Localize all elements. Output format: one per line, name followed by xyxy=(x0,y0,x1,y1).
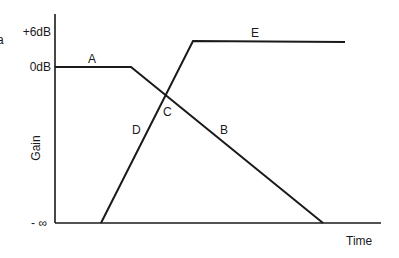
segment-label-a: A xyxy=(88,52,96,66)
y-axis-title: Gain xyxy=(29,135,43,160)
segment-label-d: D xyxy=(132,123,141,137)
segment-label-e: E xyxy=(251,26,259,40)
curve-fade-out xyxy=(55,67,323,223)
tick-minus-infinity: - ∞ xyxy=(31,216,47,230)
segment-label-b: B xyxy=(220,123,228,137)
gain-time-diagram: +6dB 0dB - ∞ Gain Time A B C D E xyxy=(0,0,399,258)
tick-plus6db: +6dB xyxy=(23,25,51,39)
segment-label-c: C xyxy=(163,105,172,119)
tick-0db: 0dB xyxy=(30,60,51,74)
x-axis-title: Time xyxy=(346,234,373,248)
